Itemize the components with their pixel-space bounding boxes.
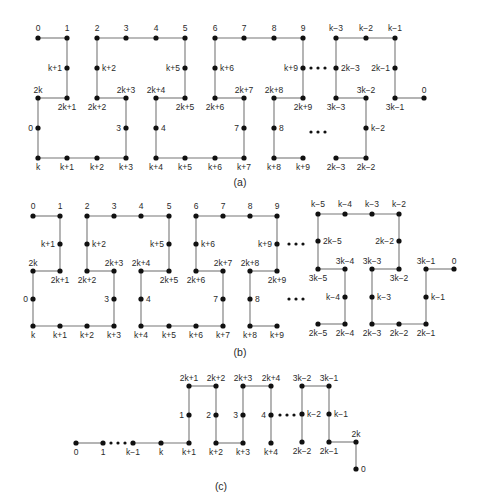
graph-node: [30, 296, 35, 301]
graph-node: [30, 213, 35, 218]
graph-node: [268, 440, 273, 445]
graph-node: [396, 238, 401, 243]
node-label: 2k−2: [357, 162, 376, 172]
node-label: 0: [23, 294, 28, 304]
node-label: k: [159, 447, 164, 457]
node-label: 7: [213, 294, 218, 304]
node-label: k+4: [149, 162, 163, 172]
ellipsis-dot: [109, 441, 112, 444]
graph-node: [130, 440, 135, 445]
graph-node: [186, 440, 191, 445]
node-label: 3k−1: [320, 373, 339, 383]
node-label: k+2: [80, 330, 94, 340]
node-label: 2k−3: [341, 63, 360, 73]
node-label: 5: [167, 201, 172, 211]
graph-node: [299, 439, 304, 444]
graph-node: [271, 35, 276, 40]
ellipsis-dot: [316, 130, 319, 133]
node-label: k+5: [150, 239, 164, 249]
ellipsis-dot: [287, 297, 290, 300]
graph-node: [299, 383, 304, 388]
graph-node: [84, 268, 89, 273]
graph-node: [73, 440, 78, 445]
node-label: 2k+6: [187, 275, 206, 285]
graph-node: [111, 296, 116, 301]
graph-node: [247, 268, 252, 273]
graph-node: [268, 412, 273, 417]
graph-node: [300, 95, 305, 100]
panel-caption: (c): [215, 480, 227, 492]
graph-node: [241, 125, 246, 130]
graph-node: [369, 321, 374, 326]
node-label: 1: [65, 23, 70, 33]
graph-node: [64, 155, 69, 160]
ellipsis-dot: [123, 441, 126, 444]
graph-node: [423, 294, 428, 299]
graph-node: [94, 95, 99, 100]
graph-node: [182, 65, 187, 70]
node-label: 2k−4: [336, 328, 355, 338]
figure-canvas: 01k+12k+12k0kk+1k+2k+332k+32k+2k+22345k+…: [0, 0, 482, 498]
node-label: k+2: [102, 63, 116, 73]
graph-node: [392, 65, 397, 70]
node-label: k+4: [134, 330, 148, 340]
node-label: 6: [194, 201, 199, 211]
graph-node: [84, 323, 89, 328]
graph-node: [241, 35, 246, 40]
node-label: 2k−5: [323, 236, 342, 246]
node-label: 7: [234, 123, 239, 133]
node-label: 2k+3: [105, 258, 124, 268]
graph-node: [271, 95, 276, 100]
graph-node: [326, 439, 331, 444]
node-label: 3: [116, 123, 121, 133]
graph-node: [193, 213, 198, 218]
graph-node: [212, 65, 217, 70]
graph-node: [315, 211, 320, 216]
graph-node: [241, 155, 246, 160]
node-label: 3k−3: [327, 102, 346, 112]
node-label: 2k+1: [180, 373, 199, 383]
node-label: 2k−1: [320, 446, 339, 456]
graph-node: [30, 323, 35, 328]
node-label: k+9: [284, 63, 298, 73]
ellipsis-dot: [301, 297, 304, 300]
graph-node: [123, 35, 128, 40]
node-label: k+1: [48, 63, 62, 73]
graph-node: [123, 95, 128, 100]
graph-node: [166, 213, 171, 218]
ellipsis-dot: [285, 413, 288, 416]
graph-node: [153, 95, 158, 100]
graph-node: [182, 155, 187, 160]
graph-node: [138, 213, 143, 218]
graph-node: [240, 440, 245, 445]
node-label: k+7: [237, 162, 251, 172]
node-label: k−2: [371, 123, 385, 133]
graph-node: [300, 155, 305, 160]
graph-node: [369, 294, 374, 299]
graph-node: [213, 412, 218, 417]
graph-node: [274, 241, 279, 246]
node-label: k+9: [258, 239, 272, 249]
node-label: k+2: [209, 447, 223, 457]
graph-node: [153, 155, 158, 160]
panel-b: 01k+12k+12k0kk+1k+2k+332k+32k+2k+22345k+…: [23, 199, 456, 358]
ellipsis-dot: [294, 297, 297, 300]
ellipsis-dot: [287, 242, 290, 245]
graph-node: [64, 35, 69, 40]
graph-node: [274, 213, 279, 218]
graph-node: [100, 440, 105, 445]
node-label: k−2: [359, 23, 373, 33]
graph-node: [123, 155, 128, 160]
node-label: 0: [452, 256, 457, 266]
node-label: k+7: [216, 330, 230, 340]
node-label: k+5: [162, 330, 176, 340]
node-label: 3: [124, 23, 129, 33]
node-label: 2k+9: [268, 275, 287, 285]
node-label: 2k+2: [207, 373, 226, 383]
node-label: 2k+8: [241, 258, 260, 268]
node-label: k−3: [329, 23, 343, 33]
graph-node: [35, 95, 40, 100]
panel-a: 01k+12k+12k0kk+1k+2k+332k+32k+2k+22345k+…: [28, 23, 426, 188]
node-label: k+9: [296, 162, 310, 172]
node-label: k+1: [53, 330, 67, 340]
